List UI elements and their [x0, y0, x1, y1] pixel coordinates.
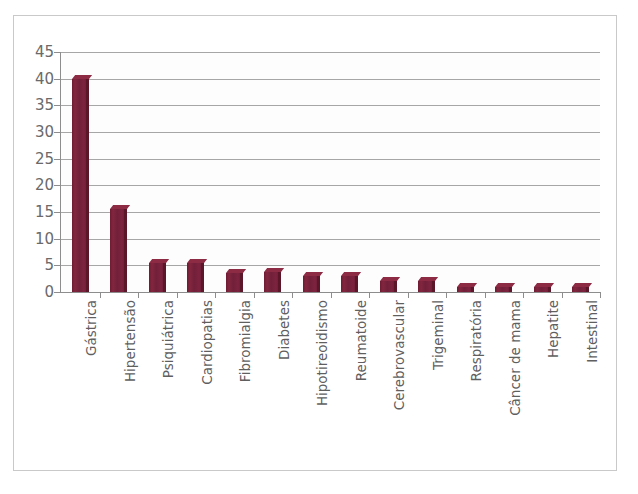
y-axis-tick-label: 10 [14, 231, 54, 246]
bar[interactable] [110, 209, 127, 292]
bar-top-face [534, 283, 554, 287]
gridline [61, 105, 600, 106]
bar-top-face [380, 277, 400, 281]
y-axis-tick [54, 185, 60, 186]
x-axis-tick [254, 292, 255, 298]
x-axis-category-label: Psiquiátrica [162, 300, 176, 378]
bar-side-face [163, 263, 166, 292]
bar-side-face [124, 209, 127, 292]
x-axis-category-label: Diabetes [278, 300, 292, 360]
bar-top-face [418, 277, 438, 281]
y-axis-tick [54, 292, 60, 293]
bar-side-face [240, 273, 243, 292]
x-axis-tick [177, 292, 178, 298]
y-axis-line [60, 52, 61, 293]
bar[interactable] [341, 276, 358, 292]
bar-side-face [86, 79, 89, 292]
x-axis-tick [100, 292, 101, 298]
x-axis-tick [446, 292, 447, 298]
y-axis-tick [54, 239, 60, 240]
bar-top-face [187, 259, 207, 263]
x-axis-tick [215, 292, 216, 298]
y-axis-tick [54, 132, 60, 133]
y-axis-tick [54, 52, 60, 53]
chart-figure: 051015202530354045 GástricaHipertensãoPs… [0, 0, 638, 494]
bar[interactable] [72, 79, 89, 292]
bar[interactable] [380, 281, 397, 292]
bar-side-face [432, 281, 435, 292]
y-axis-tick-label: 5 [14, 258, 54, 273]
gridline [61, 239, 600, 240]
bar[interactable] [226, 273, 243, 292]
bar-side-face [355, 276, 358, 292]
x-axis-tick [292, 292, 293, 298]
gridline [61, 52, 600, 53]
bar[interactable] [264, 272, 281, 292]
plot-area [61, 52, 600, 292]
bar[interactable] [187, 263, 204, 292]
x-axis-category-label: Hipotireoidismo [316, 300, 330, 406]
y-axis-tick [54, 159, 60, 160]
y-axis-tick [54, 79, 60, 80]
bar-top-face [303, 272, 323, 276]
x-axis-category-labels: GástricaHipertensãoPsiquiátricaCardiopat… [61, 300, 600, 480]
bar[interactable] [418, 281, 435, 292]
x-axis-tick [369, 292, 370, 298]
x-axis-category-label: Respiratória [470, 300, 484, 381]
bar-top-face [495, 283, 515, 287]
bar-top-face [149, 259, 169, 263]
x-axis-tick [485, 292, 486, 298]
x-axis-tick [523, 292, 524, 298]
bar-top-face [264, 268, 284, 272]
x-axis-category-label: Câncer de mama [509, 300, 523, 416]
gridline [61, 265, 600, 266]
bar-side-face [394, 281, 397, 292]
y-axis-tick [54, 265, 60, 266]
gridline [61, 132, 600, 133]
x-axis-tick [408, 292, 409, 298]
y-axis-tick-label: 35 [14, 98, 54, 113]
bar-side-face [278, 272, 281, 292]
gridline [61, 159, 600, 160]
y-axis-tick-label: 45 [14, 45, 54, 60]
x-axis-category-label: Hepatite [547, 300, 561, 358]
gridline [61, 185, 600, 186]
x-axis-category-label: Trigeminal [432, 300, 446, 370]
y-axis-tick-label: 15 [14, 205, 54, 220]
gridline [61, 79, 600, 80]
bar[interactable] [149, 263, 166, 292]
x-axis-category-label: Cardiopatias [201, 300, 215, 385]
x-axis-category-label: Reumatoide [355, 300, 369, 381]
bar-top-face [226, 269, 246, 273]
gridline [61, 212, 600, 213]
y-axis-tick [54, 212, 60, 213]
x-axis-tick [600, 292, 601, 298]
bar-side-face [317, 276, 320, 292]
y-axis-tick-label: 20 [14, 178, 54, 193]
bar-top-face [72, 75, 92, 79]
x-axis-tick [562, 292, 563, 298]
y-axis-tick-label: 30 [14, 125, 54, 140]
x-axis-tick [138, 292, 139, 298]
bar-top-face [457, 283, 477, 287]
bar-top-face [110, 205, 130, 209]
x-axis-category-label: Cerebrovascular [393, 300, 407, 410]
y-axis-tick-label: 40 [14, 71, 54, 86]
x-axis-category-label: Fibromialgia [239, 300, 253, 382]
x-axis-category-label: Gástrica [85, 300, 99, 356]
bar-top-face [572, 283, 592, 287]
x-axis-tick [331, 292, 332, 298]
y-axis-tick-labels: 051015202530354045 [8, 0, 54, 494]
y-axis-tick [54, 105, 60, 106]
y-axis-tick-label: 25 [14, 151, 54, 166]
bar[interactable] [303, 276, 320, 292]
x-axis-category-label: Intestinal [586, 300, 600, 363]
y-axis-tick-label: 0 [14, 285, 54, 300]
bar-top-face [341, 272, 361, 276]
x-axis-category-label: Hipertensão [124, 300, 138, 382]
bar-side-face [201, 263, 204, 292]
